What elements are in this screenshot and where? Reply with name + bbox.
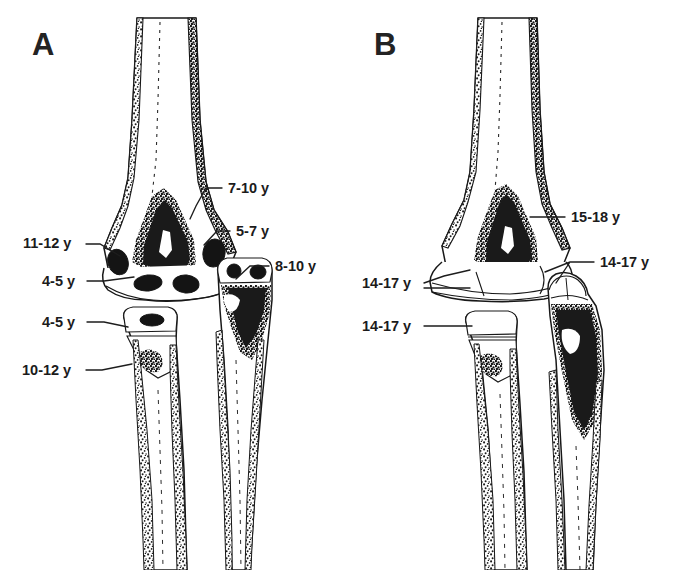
label-a-radial-tuberosity: 10-12 y xyxy=(22,362,71,378)
label-b-olecranon: 14-17 y xyxy=(600,254,649,270)
panel-a-letter: A xyxy=(32,27,54,62)
panel-a: A xyxy=(22,18,316,570)
panel-a-ulna xyxy=(216,258,272,570)
radial-head-center xyxy=(140,314,164,326)
figure-root: A xyxy=(0,0,693,570)
leader-a-radial-tuberosity xyxy=(86,364,132,370)
label-a-medial-epicondyle: 11-12 y xyxy=(23,235,71,251)
radius-b-head-epiphysis xyxy=(466,311,517,335)
panel-b-letter: B xyxy=(374,27,396,62)
label-a-lateral-epicondyle: 7-10 y xyxy=(228,180,269,196)
label-a-radial-head: 4-5 y xyxy=(42,314,75,330)
label-b-medial-trochlea: 14-17 y xyxy=(362,275,411,291)
leader-a-radial-head xyxy=(87,322,128,327)
label-b-distal-humerus: 15-18 y xyxy=(571,209,620,225)
panel-b-ulna xyxy=(548,272,604,570)
panel-b-radius xyxy=(466,311,527,570)
label-b-radial-head: 14-17 y xyxy=(362,318,411,334)
label-a-trochlea: 4-5 y xyxy=(42,273,75,289)
panel-a-radius xyxy=(124,307,187,570)
elbow-ossification-figure: A xyxy=(0,0,693,570)
label-a-lateral-condyle: 5-7 y xyxy=(236,223,269,239)
olecranon-center-2 xyxy=(250,265,266,279)
label-a-olecranon: 8-10 y xyxy=(275,258,316,274)
panel-b: B xyxy=(362,18,649,570)
panel-b-humerus xyxy=(430,18,572,302)
panel-a-humerus xyxy=(103,18,239,301)
